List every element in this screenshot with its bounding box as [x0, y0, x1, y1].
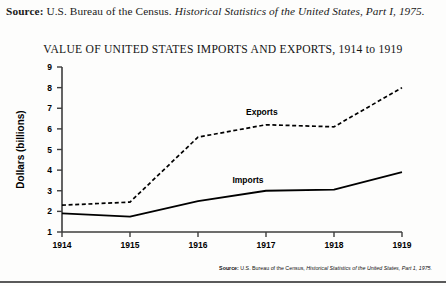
bottom-rule — [0, 281, 446, 283]
figure-source-note: Source: U.S. Bureau of the Census, Histo… — [0, 265, 432, 271]
y-tick-label: 4 — [36, 165, 52, 175]
y-tick-label: 7 — [36, 103, 52, 113]
x-tick-label: 1915 — [110, 240, 150, 250]
series-label-exports: Exports — [246, 107, 278, 117]
series-line-exports — [62, 88, 402, 206]
y-tick-label: 9 — [36, 62, 52, 72]
x-tick-label: 1914 — [42, 240, 82, 250]
y-tick-label: 2 — [36, 206, 52, 216]
chart-series-group — [62, 88, 402, 217]
x-tick-label: 1919 — [382, 240, 422, 250]
source-italic-title: Historical Statistics of the United Stat… — [175, 5, 425, 17]
y-tick-label: 8 — [36, 83, 52, 93]
x-tick-label: 1918 — [314, 240, 354, 250]
source-citation-header: Source: U.S. Bureau of the Census. Histo… — [6, 4, 440, 19]
plot-area: Dollars (billions) 123456789 19141915191… — [0, 60, 446, 278]
figure-source-italic: Historical Statistics of the United Stat… — [306, 265, 432, 271]
chart-title: VALUE OF UNITED STATES IMPORTS AND EXPOR… — [0, 43, 446, 56]
source-plain-text: U.S. Bureau of the Census. — [44, 5, 175, 17]
source-label: Source: — [6, 5, 44, 17]
figure-source-plain: U.S. Bureau of the Census, — [239, 265, 306, 271]
y-tick-label: 1 — [36, 227, 52, 237]
y-tick-label: 5 — [36, 145, 52, 155]
chart-axes — [57, 67, 402, 237]
y-tick-label: 3 — [36, 186, 52, 196]
figure-source-label: Source: — [219, 265, 239, 271]
series-label-imports: Imports — [232, 175, 263, 185]
chart-figure: VALUE OF UNITED STATES IMPORTS AND EXPOR… — [0, 38, 446, 278]
y-tick-label: 6 — [36, 124, 52, 134]
page-root: Source: U.S. Bureau of the Census. Histo… — [0, 0, 446, 286]
x-tick-label: 1916 — [178, 240, 218, 250]
x-tick-label: 1917 — [246, 240, 286, 250]
